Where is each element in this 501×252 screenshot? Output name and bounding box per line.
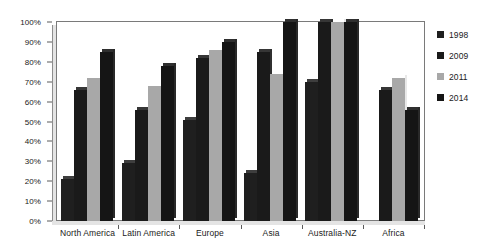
bar-face <box>305 82 318 221</box>
x-axis: North AmericaLatin AmericaEuropeAsiaAust… <box>0 228 501 244</box>
chart-screenshot: 0%10%20%30%40%50%60%70%80%90%100% North … <box>0 0 501 252</box>
bar-face <box>135 110 148 221</box>
bar <box>222 42 235 221</box>
x-axis-tick-label: Australia-NZ <box>308 228 356 238</box>
y-axis-tick-mark <box>47 121 52 122</box>
bar-group <box>363 22 424 221</box>
x-axis-tick-mark <box>179 225 180 229</box>
bar-face <box>257 52 270 221</box>
bar-face <box>61 179 74 221</box>
bar <box>135 110 148 221</box>
legend-swatch-icon <box>437 73 444 80</box>
bar-face <box>183 120 196 221</box>
y-axis-tick-mark <box>47 41 52 42</box>
legend-item[interactable]: 2014 <box>437 87 501 108</box>
bar <box>283 22 296 221</box>
legend-swatch-icon <box>437 31 444 38</box>
bar <box>209 50 222 221</box>
x-axis-tick-mark <box>302 225 303 229</box>
bar <box>161 66 174 221</box>
bar <box>122 163 135 221</box>
y-axis-tick-label: 30% <box>25 157 41 166</box>
bar-face <box>222 42 235 221</box>
y-axis-tick-mark <box>47 101 52 102</box>
bar <box>74 90 87 221</box>
bar-face <box>244 173 257 221</box>
y-axis-tick-label: 80% <box>25 57 41 66</box>
legend-item[interactable]: 2009 <box>437 45 501 66</box>
legend-item-label: 2009 <box>449 51 468 61</box>
bar-side-face <box>235 39 237 218</box>
bar-group <box>302 22 363 221</box>
y-axis-tick-label: 0% <box>29 217 41 226</box>
y-axis-tick-mark <box>47 201 52 202</box>
y-axis-tick-mark <box>47 22 52 23</box>
x-axis-tick-mark <box>118 225 119 229</box>
bar <box>318 22 331 221</box>
y-axis-tick-mark <box>47 141 52 142</box>
bar-face <box>87 78 100 221</box>
bar <box>87 78 100 221</box>
bar-face <box>74 90 87 221</box>
bar <box>379 90 392 221</box>
bar-face <box>344 22 357 221</box>
bar <box>331 22 344 221</box>
bar-face <box>161 66 174 221</box>
y-axis-tick-label: 20% <box>25 177 41 186</box>
legend-item[interactable]: 1998 <box>437 24 501 45</box>
bars-layer <box>57 22 424 221</box>
y-axis-tick-mark <box>47 181 52 182</box>
legend-swatch-icon <box>437 52 444 59</box>
x-axis-tick-label: Europe <box>196 228 224 238</box>
bar-side-face <box>174 63 176 218</box>
bar <box>61 179 74 221</box>
bar <box>148 86 161 221</box>
bar <box>183 120 196 221</box>
bar-group <box>241 22 302 221</box>
y-axis-tick-label: 50% <box>25 117 41 126</box>
bar <box>405 110 418 221</box>
y-axis-tick-label: 90% <box>25 37 41 46</box>
y-axis-tick-label: 100% <box>20 18 41 27</box>
bar-face <box>283 22 296 221</box>
bar-group <box>118 22 179 221</box>
legend-item[interactable]: 2011 <box>437 66 501 87</box>
x-axis-tick-mark <box>363 225 364 229</box>
x-axis-tick-mark <box>241 225 242 229</box>
y-axis-tick-mark <box>47 161 52 162</box>
x-axis-tick-label: North America <box>60 228 115 238</box>
bar <box>344 22 357 221</box>
bar-face <box>196 58 209 221</box>
bar-face <box>331 22 344 221</box>
x-axis-tick-label: Africa <box>382 228 404 238</box>
y-axis-tick-mark <box>47 81 52 82</box>
legend-swatch-icon <box>437 94 444 101</box>
y-axis-tick-mark <box>47 221 52 222</box>
x-axis-tick-label: Asia <box>263 228 280 238</box>
bar-face <box>270 74 283 221</box>
bar <box>100 52 113 221</box>
bar <box>392 78 405 221</box>
bar <box>257 52 270 221</box>
bar-group <box>57 22 118 221</box>
x-axis-tick-mark <box>424 225 425 229</box>
bar-face <box>209 50 222 221</box>
y-axis-tick-label: 70% <box>25 77 41 86</box>
bar-side-face <box>418 107 420 218</box>
y-axis-tick-label: 60% <box>25 97 41 106</box>
bar-face <box>100 52 113 221</box>
legend: 1998200920112014 <box>437 24 501 108</box>
bar <box>270 74 283 221</box>
bar <box>244 173 257 221</box>
plot-bottom-wall <box>52 221 425 225</box>
bar-face <box>392 78 405 221</box>
bar <box>196 58 209 221</box>
bar-face <box>148 86 161 221</box>
bar-side-face <box>296 19 298 218</box>
legend-item-label: 2011 <box>449 72 468 82</box>
bar <box>305 82 318 221</box>
legend-item-label: 2014 <box>449 93 468 103</box>
bar-face <box>379 90 392 221</box>
bar-side-face <box>357 19 359 218</box>
bar-face <box>405 110 418 221</box>
